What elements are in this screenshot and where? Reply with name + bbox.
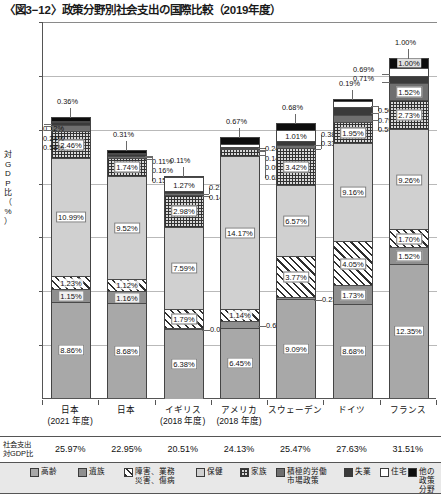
bar-segment-koure: 9.09% <box>277 300 315 398</box>
segment-callout-label: 0.71% <box>353 75 374 83</box>
legend-item-hoka[interactable]: 他の 政策分野 <box>408 467 441 494</box>
legend-swatch-icon <box>78 468 87 477</box>
bar-segment-hoken: 14.17% <box>221 157 259 310</box>
legend-label: 遺族 <box>89 467 105 476</box>
y-tick-mark <box>39 184 43 185</box>
segment-callout-label: 0.68% <box>282 104 303 112</box>
bar-segment-shogai: 3.77% <box>277 257 315 298</box>
legend-swatch-icon <box>344 468 353 477</box>
bar-segment-shogai: 1.23% <box>52 277 90 290</box>
segment-value-label: 1.73% <box>340 289 366 300</box>
bar-segment-kazoku: 2.98% <box>165 196 203 228</box>
bar-segment-izoku: 1.52% <box>390 248 428 264</box>
callout-leader <box>382 74 390 75</box>
totals-label: 社会支出対GDP比 <box>3 440 43 458</box>
legend-item-hoken[interactable]: 保健 <box>196 467 223 477</box>
callout-leader <box>44 126 52 127</box>
total-value: 25.97% <box>39 444 101 454</box>
callout-leader <box>352 90 353 100</box>
legend-swatch-icon <box>240 468 249 477</box>
callout-leader <box>408 49 409 59</box>
legend-item-izoku[interactable]: 遺族 <box>78 467 105 477</box>
segment-callout-label: 0.16% <box>152 167 173 175</box>
y-tick-mark <box>39 291 43 292</box>
segment-value-label: 4.05% <box>340 258 366 269</box>
segment-value-label: 1.15% <box>59 292 83 301</box>
segment-value-label: 10.99% <box>56 212 86 223</box>
bar-column[interactable]: 1.27%2.98%7.59%1.79%6.38% <box>164 176 204 398</box>
y-tick-mark <box>39 345 43 346</box>
legend-swatch-icon <box>196 468 205 477</box>
segment-value-label: 9.26% <box>396 174 422 185</box>
bar-segment-izoku: 1.73% <box>334 286 372 305</box>
segment-callout-label: 1.00% <box>395 39 416 47</box>
bar-segment-hoken: 10.99% <box>52 159 90 277</box>
y-tick-mark <box>39 237 43 238</box>
legend-item-shitsugyo[interactable]: 失業 <box>344 467 371 477</box>
legend-label: 積極的労働 市場政策 <box>287 467 327 485</box>
segment-value-label: 1.01% <box>284 131 308 140</box>
segment-callout-label: 0.24% <box>43 135 64 143</box>
segment-callout-label: 0.36% <box>57 98 78 106</box>
total-value: 27.63% <box>321 444 383 454</box>
segment-value-label: 1.23% <box>59 279 83 288</box>
segment-value-label: 1.12% <box>115 281 139 290</box>
segment-callout-label: 0.67% <box>226 118 247 126</box>
segment-value-label: 3.42% <box>283 162 309 173</box>
segment-value-label: 2.73% <box>396 109 422 120</box>
bar-column[interactable]: 14.17%1.14%6.45% <box>220 137 260 398</box>
callout-leader <box>70 108 71 118</box>
x-axis: 日本(2021 年度)日本イギリス(2018 年度)アメリカ(2018 年度)ス… <box>42 400 436 434</box>
x-category-label: 日本(2021 年度) <box>39 405 101 427</box>
legend-label: 住宅 <box>391 467 407 476</box>
bar-column[interactable]: 1.01%3.42%6.57%3.77%9.09% <box>276 123 316 398</box>
bar-segment-jutaku: 1.01% <box>277 131 315 142</box>
legend-label: 家族 <box>251 467 267 476</box>
x-category-label: アメリカ(2018 年度) <box>208 405 270 427</box>
bar-segment-shitsugyo <box>334 108 372 117</box>
bar-segment-kazoku: 3.42% <box>277 149 315 186</box>
segment-value-label: 3.77% <box>283 271 309 282</box>
bar-column[interactable]: 1.95%9.16%4.05%1.73%8.68% <box>333 99 373 398</box>
legend-item-shogai[interactable]: 障害、業務 災害、傷病 <box>124 467 175 485</box>
segment-value-label: 2.98% <box>171 206 197 217</box>
x-category-label: イギリス(2018 年度) <box>152 405 214 427</box>
legend-label: 保健 <box>207 467 223 476</box>
legend-item-koure[interactable]: 高齢 <box>30 467 57 477</box>
plot-area: 35%30%25%20%15%10%5%2.46%10.99%1.23%1.15… <box>42 22 436 399</box>
page-title: 〈図3−12〉政策分野別社会支出の国際比較（2019年度） <box>4 1 281 17</box>
segment-value-label: 9.52% <box>114 223 140 234</box>
legend-item-kazoku[interactable]: 家族 <box>240 467 267 477</box>
bar-column[interactable]: 2.46%10.99%1.23%1.15%8.86% <box>51 117 91 398</box>
segment-value-label: 1.70% <box>396 233 422 244</box>
legend-swatch-icon <box>30 468 39 477</box>
segment-value-label: 1.52% <box>396 250 422 261</box>
segment-value-label: 1.52% <box>396 87 422 98</box>
segment-value-label: 1.14% <box>228 311 252 320</box>
segment-value-label: 8.68% <box>340 346 366 357</box>
x-category-label: ドイツ <box>321 405 383 416</box>
legend-label: 障害、業務 災害、傷病 <box>135 467 175 485</box>
y-tick-mark <box>39 76 43 77</box>
bar-column[interactable]: 1.00%1.52%2.73%9.26%1.70%1.52%12.35% <box>389 58 429 398</box>
legend-swatch-icon <box>380 468 389 477</box>
total-value: 20.51% <box>152 444 214 454</box>
y-axis-title: 対GDP比（%） <box>2 150 14 226</box>
bar-segment-hoka <box>277 124 315 131</box>
bar-column[interactable]: 1.74%9.52%1.12%1.16%8.68% <box>107 150 147 398</box>
legend-item-jutaku[interactable]: 住宅 <box>380 467 407 477</box>
segment-value-label: 6.57% <box>283 216 309 227</box>
segment-callout-label: 0.69% <box>353 66 374 74</box>
callout-leader <box>239 128 240 138</box>
bar-segment-roudou: 1.52% <box>390 84 428 100</box>
segment-value-label: 9.16% <box>340 187 366 198</box>
segment-value-label: 6.38% <box>171 359 197 370</box>
legend-item-roudou[interactable]: 積極的労働 市場政策 <box>276 467 327 485</box>
callout-leader <box>44 130 52 131</box>
bar-segment-koure: 8.68% <box>108 304 146 397</box>
x-category-label: 日本 <box>95 405 157 416</box>
gridline <box>43 76 437 77</box>
total-value: 24.13% <box>208 444 270 454</box>
totals-row: 社会支出対GDP比 25.97%22.95%20.51%24.13%25.47%… <box>0 436 441 463</box>
